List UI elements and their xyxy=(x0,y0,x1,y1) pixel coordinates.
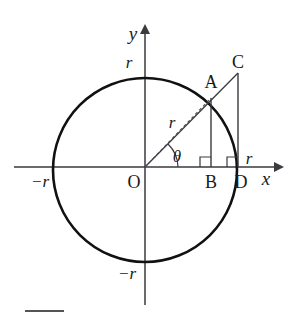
y-axis-tick-label-positive-r: r xyxy=(126,53,133,72)
y-axis-tick-label-negative-r: −r xyxy=(118,264,136,283)
trigonometry-diagram: r −r −r r y x O A B C D r θ xyxy=(0,0,294,322)
y-axis-arrow-icon xyxy=(140,24,150,34)
point-label-D: D xyxy=(235,172,248,192)
radius-label-r: r xyxy=(169,113,176,132)
point-label-C: C xyxy=(232,52,244,72)
ray-O-to-C xyxy=(145,73,238,167)
point-label-O: O xyxy=(128,172,141,192)
point-label-B: B xyxy=(205,172,217,192)
x-axis-arrow-icon xyxy=(274,162,284,172)
right-angle-mark-at-B xyxy=(200,157,211,167)
x-axis-tick-label-negative-r: −r xyxy=(31,172,49,191)
angle-label-theta: θ xyxy=(173,147,181,166)
y-axis-label: y xyxy=(127,23,138,44)
x-axis-label: x xyxy=(261,168,271,189)
tangent-length-label-r: r xyxy=(246,149,253,168)
point-label-A: A xyxy=(205,72,218,92)
